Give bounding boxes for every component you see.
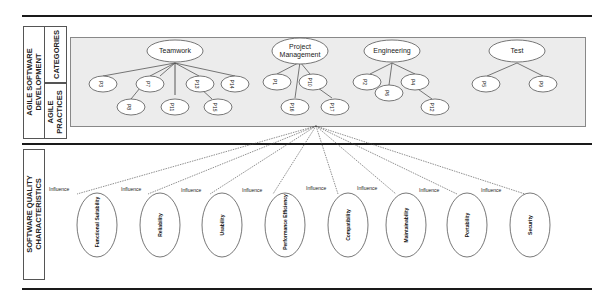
practice-label: P17 [329,103,335,112]
category-label-test: Test [489,47,545,55]
practice-label: P5 [481,81,487,87]
influence-label: Influence [481,187,501,193]
practice-label: P3 [98,81,104,87]
practice-label: P12 [429,103,435,112]
practice-label: P8 [126,104,132,110]
practice-label: P9 [538,81,544,87]
characteristic-portability: Portability [464,195,470,255]
practice-label: P11 [169,103,175,112]
characteristic-compatibility: Compatibility [345,195,351,255]
practice-label: P6 [384,90,390,96]
characteristic-reliability: Reliability [157,195,163,255]
influence-label: Influence [181,187,201,193]
influence-label: Influence [242,187,262,193]
characteristic-functional-suitability: Functional Suitability [94,192,100,252]
practice-label: P15 [212,103,218,112]
influence-label: Influence [121,186,141,192]
category-label-engineering: Engineering [364,47,420,55]
practice-label: P14 [229,80,235,89]
influence-label: Influence [306,185,326,191]
influence-label: Influence [419,187,439,193]
characteristic-usability: Usability [219,195,225,255]
practice-label: P4 [410,79,416,85]
influence-label: Influence [357,185,377,191]
characteristic-maintainability: Maintainability [403,195,409,255]
influence-label: Influence [49,186,69,192]
category-label-teamwork: Teamwork [147,47,203,55]
practice-label: P1 [272,79,278,85]
practice-label: P2 [362,79,368,85]
practice-label: P10 [307,78,313,87]
practice-label: P16 [289,103,295,112]
characteristic-security: Security [527,195,533,255]
practice-label: P13 [194,80,200,89]
category-label-project-management: Project Management [278,43,322,59]
practice-label: P7 [145,81,151,87]
characteristic-performance-efficiency: Performance Efficiency [282,192,288,252]
